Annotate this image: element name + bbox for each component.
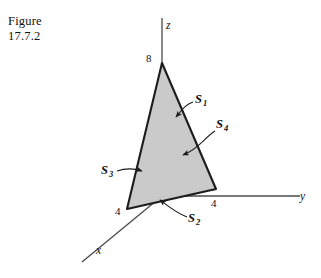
y-intercept-label: 4: [211, 197, 217, 209]
surface-label-s3-text: S: [101, 163, 108, 177]
surface-label-s1-text: S: [195, 92, 202, 106]
tetrahedron-diagram: z y x 8 4 4 S 1 S 4 S 3 S 2: [0, 0, 321, 278]
surface-label-s3-subscript: 3: [108, 169, 114, 179]
y-axis-label: y: [299, 190, 306, 203]
surface-label-s2: S 2: [160, 200, 201, 227]
z-axis-label: z: [165, 19, 171, 31]
x-axis-line: [82, 196, 162, 262]
figure-container: Figure 17.7.2: [0, 0, 321, 278]
x-intercept-label: 4: [115, 205, 121, 217]
surface-label-s2-subscript: 2: [195, 217, 201, 227]
x-axis-label: x: [95, 244, 102, 256]
surface-label-s2-leader: [160, 200, 187, 217]
surface-label-s4-text: S: [216, 117, 223, 131]
surface-label-s1-subscript: 1: [203, 98, 207, 108]
z-intercept-label: 8: [146, 52, 152, 64]
surface-label-s4-subscript: 4: [223, 123, 228, 133]
surface-label-s2-text: S: [188, 211, 195, 225]
